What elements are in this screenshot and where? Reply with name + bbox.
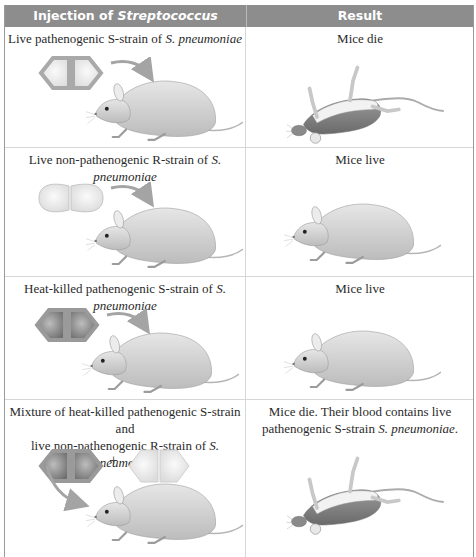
result-cell: Mice live [247,277,473,399]
header-injection-prefix: Injection of [33,8,117,23]
injection-species: S. pneumoniae [165,31,242,46]
table-row: Live non-pathenogenic R-strain of S. pne… [5,148,473,277]
header-result: Result [247,5,473,27]
injection-cell: Live non-pathenogenic R-strain of S. pne… [5,148,246,276]
table-row: Live pathenogenic S-strain of S. pneumon… [5,27,473,148]
header-injection: Injection of Streptococcus pneumoniae [5,5,246,27]
injection-cell: Mixture of heat-killed pathenogenic S-st… [5,400,246,557]
injection-text: Live non-pathenogenic R-strain of [29,152,212,167]
live-mouse-icon [79,315,239,399]
live-mouse-icon [281,186,441,270]
table-row: Mixture of heat-killed pathenogenic S-st… [5,400,473,557]
injection-text: Live pathenogenic S-strain of [8,31,165,46]
injection-cell: Live pathenogenic S-strain of S. pneumon… [5,27,246,147]
injection-label: Live pathenogenic S-strain of S. pneumon… [5,30,245,47]
result-text-end: . [455,421,458,436]
result-species: S. pneumoniae [378,421,455,436]
result-text-line2-text: pathenogenic S-strain [262,421,378,436]
result-text: Mice die. Their blood contains live [247,403,473,420]
result-cell: Mice die. Their blood contains live path… [247,400,473,557]
result-cell: Mice live [247,148,473,276]
injection-text: Heat-killed pathenogenic S-strain of [24,281,216,296]
result-cell: Mice die [247,27,473,147]
result-label: Mice die. Their blood contains live path… [247,403,473,437]
live-mouse-icon [83,63,243,147]
injection-text: Mixture of heat-killed pathenogenic S-st… [5,403,245,437]
result-label: Mice live [247,151,473,168]
dead-mouse-icon [265,448,465,538]
result-label: Mice live [247,280,473,297]
live-mouse-icon [83,190,243,274]
live-mouse-icon [83,466,243,550]
result-label: Mice die [247,30,473,47]
table-header: Injection of Streptococcus pneumoniae Re… [5,5,473,27]
result-text-line2: pathenogenic S-strain S. pneumoniae. [247,420,473,437]
live-mouse-icon [281,313,441,397]
results-table: Injection of Streptococcus pneumoniae Re… [4,5,474,557]
injection-cell: Heat-killed pathenogenic S-strain of S. … [5,277,246,399]
dead-mouse-icon [265,57,465,147]
table-row: Heat-killed pathenogenic S-strain of S. … [5,277,473,400]
